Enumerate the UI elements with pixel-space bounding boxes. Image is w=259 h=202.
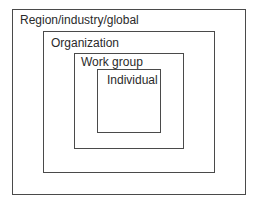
region-label: Region/industry/global (20, 14, 139, 26)
individual-label: Individual (107, 74, 158, 86)
organization-label: Organization (51, 37, 119, 49)
work-group-label: Work group (81, 56, 143, 68)
